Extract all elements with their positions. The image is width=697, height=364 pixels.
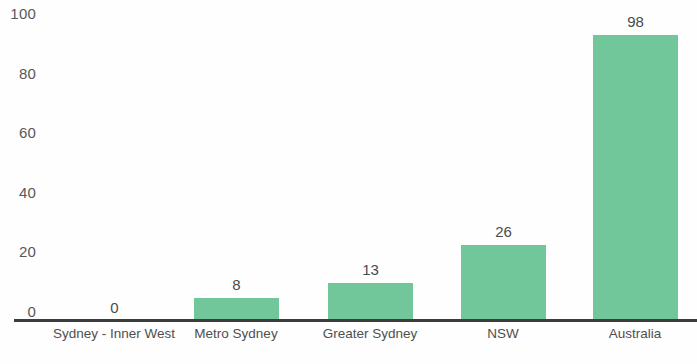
x-tick-label-sydney-inner-west: Sydney - Inner West bbox=[44, 326, 184, 342]
x-tick-label-nsw: NSW bbox=[433, 326, 573, 342]
y-tick-label-0: 0 bbox=[27, 304, 36, 319]
bar-group-2: 13 bbox=[304, 0, 437, 321]
y-tick-label-20: 20 bbox=[19, 244, 36, 259]
bar-chart: 100 80 60 40 20 0 0 8 13 26 98 bbox=[0, 0, 697, 364]
x-tick-label-greater-sydney: Greater Sydney bbox=[300, 326, 440, 342]
bar-australia bbox=[593, 35, 678, 321]
bar-greater-sydney bbox=[328, 283, 413, 321]
x-tick-label-metro-sydney: Metro Sydney bbox=[166, 326, 306, 342]
bar-group-1: 8 bbox=[170, 0, 303, 321]
x-axis: Sydney - Inner West Metro Sydney Greater… bbox=[48, 326, 697, 364]
y-axis: 100 80 60 40 20 0 bbox=[0, 0, 48, 364]
bar-metro-sydney bbox=[194, 298, 279, 321]
plot-area: 0 8 13 26 98 bbox=[48, 0, 697, 321]
bar-group-3: 26 bbox=[437, 0, 570, 321]
y-tick-label-40: 40 bbox=[19, 185, 36, 200]
x-tick-label-australia: Australia bbox=[565, 326, 697, 342]
bar-value-4: 98 bbox=[569, 14, 697, 29]
y-tick-label-60: 60 bbox=[19, 125, 36, 140]
bar-value-3: 26 bbox=[437, 224, 570, 239]
x-axis-line bbox=[14, 319, 697, 322]
bar-group-0: 0 bbox=[48, 0, 181, 321]
bar-nsw bbox=[461, 245, 546, 321]
bar-value-2: 13 bbox=[304, 262, 437, 277]
y-tick-label-80: 80 bbox=[19, 66, 36, 81]
bar-value-1: 8 bbox=[170, 277, 303, 292]
bar-group-4: 98 bbox=[569, 0, 697, 321]
y-tick-label-100: 100 bbox=[10, 6, 36, 21]
bar-value-0: 0 bbox=[48, 300, 181, 315]
